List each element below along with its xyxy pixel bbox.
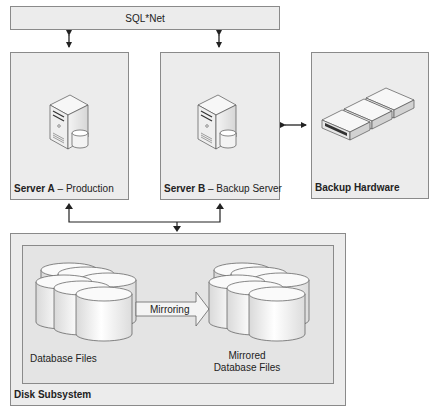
backup-hardware-icon xyxy=(322,88,414,140)
mirrored-database-files-icon xyxy=(209,263,309,341)
mirroring-label: Mirroring xyxy=(150,304,189,315)
database-files-icon xyxy=(36,263,136,341)
mirrored-label-line2: Database Files xyxy=(205,362,289,373)
database-files-label: Database Files xyxy=(30,353,97,364)
arrow-servers-disk-subsystem xyxy=(65,203,224,232)
server-a-icon xyxy=(50,95,88,149)
server-b-icon xyxy=(198,95,236,149)
mirrored-label-line1: Mirrored xyxy=(214,350,280,361)
